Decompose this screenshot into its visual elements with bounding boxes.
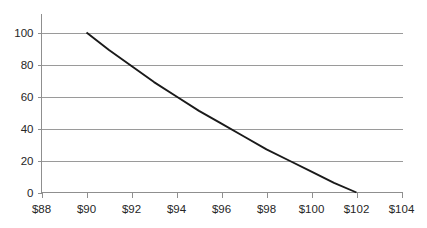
y-tick-label-20: 20 (21, 155, 34, 167)
y-tick-label-100: 100 (14, 27, 33, 39)
y-tick-label-60: 60 (21, 91, 34, 103)
y-tick-label-80: 80 (21, 59, 34, 71)
x-tick-label-88: $88 (32, 203, 51, 215)
x-tick-label-94: $94 (167, 203, 187, 215)
series-line-0 (87, 33, 357, 193)
x-tick-label-92: $92 (122, 203, 141, 215)
y-tick-label-40: 40 (21, 123, 34, 135)
y-tick-marks-group (38, 34, 42, 194)
x-tick-labels-group: $88$90$92$94$96$98$100$102$104 (32, 203, 415, 215)
chart-canvas: 020406080100 $88$90$92$94$96$98$100$102$… (0, 0, 427, 228)
line-chart: 020406080100 $88$90$92$94$96$98$100$102$… (0, 0, 427, 228)
x-tick-label-98: $98 (257, 203, 276, 215)
x-tick-marks-group (43, 193, 403, 198)
gridlines-group (42, 34, 404, 162)
x-tick-label-90: $90 (77, 203, 96, 215)
x-tick-label-102: $102 (344, 203, 370, 215)
x-tick-label-104: $104 (389, 203, 415, 215)
data-series-group (87, 33, 357, 193)
x-tick-label-96: $96 (212, 203, 231, 215)
y-tick-labels-group: 020406080100 (14, 27, 33, 199)
y-tick-label-0: 0 (27, 187, 33, 199)
x-tick-label-100: $100 (299, 203, 325, 215)
